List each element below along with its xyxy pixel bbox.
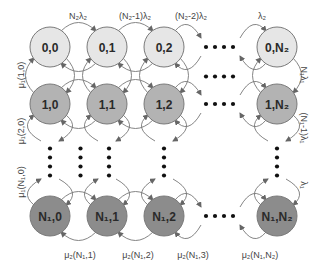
- state-node: N₁,2: [144, 196, 184, 236]
- rowN-ellipsis: [204, 214, 235, 218]
- service-rate-label: μ₂(N₁,N₂): [242, 250, 279, 260]
- state-label: 0,2: [156, 41, 173, 55]
- dot: [222, 214, 226, 218]
- dot: [107, 146, 111, 150]
- dot: [48, 155, 52, 159]
- arrival-rate-label: (N₂-1)λ₂: [119, 11, 151, 21]
- state-label: 0,0: [42, 41, 59, 55]
- arrival-rate-label: (N₂-2)λ₂: [175, 11, 207, 21]
- state-label: 1,2: [156, 98, 173, 112]
- row1-c1-c2-forward-arc: [118, 80, 153, 89]
- row1-c0-c1-forward-arc: [61, 80, 96, 89]
- row0-c0-c1-forward-arc: [61, 23, 96, 32]
- dot: [213, 74, 217, 78]
- dot: [162, 173, 166, 177]
- state-label: N₁,2: [152, 210, 176, 224]
- row0-c0-c1-backward-arc: [61, 63, 96, 72]
- dot: [213, 45, 217, 49]
- state-node: 1,0: [30, 84, 70, 124]
- state-label: 1,0: [42, 98, 59, 112]
- dot: [78, 164, 82, 168]
- dot: [162, 155, 166, 159]
- arrival-rate-label: N₂λ₂: [69, 11, 87, 21]
- row1-ellipsis: [204, 102, 235, 106]
- dot: [275, 164, 279, 168]
- markov-chain-diagram: 0,00,10,20,N₂1,01,11,21,N₂N₁,0N₁,1N₁,2N₁…: [0, 0, 318, 270]
- service-rate-label: μ₁(N₁,0): [16, 166, 26, 197]
- dot: [78, 146, 82, 150]
- state-label: N₁,1: [95, 210, 119, 224]
- state-label: N₁,0: [38, 210, 62, 224]
- colN-ellipsis: [275, 146, 279, 177]
- arrival-rate-label: N₁λ₁: [299, 66, 309, 83]
- state-node: 1,1: [87, 84, 127, 124]
- col2-r0-r1-up-arc: [140, 58, 149, 93]
- dot: [204, 74, 208, 78]
- state-nodes: 0,00,10,20,N₂1,01,11,21,N₂N₁,0N₁,1N₁,2N₁…: [30, 27, 297, 236]
- row2-c1-c2-backward-arc: [118, 232, 153, 241]
- dot: [231, 74, 235, 78]
- dot: [204, 45, 208, 49]
- state-node: 1,2: [144, 84, 184, 124]
- service-rate-label: μ₁(1,0): [16, 62, 26, 89]
- arrival-rate-label: λ₁: [299, 181, 309, 189]
- dot: [48, 164, 52, 168]
- state-node: N₁,N₂: [257, 196, 297, 236]
- dot: [231, 214, 235, 218]
- dot: [204, 102, 208, 106]
- state-node: 0,1: [87, 27, 127, 67]
- col1-r0-r1-up-arc: [83, 58, 92, 93]
- state-label: N₁,N₂: [262, 210, 293, 224]
- between-cols-ellipsis: [78, 146, 82, 177]
- col1-r0-r1-down-arc: [123, 58, 132, 93]
- dot: [78, 173, 82, 177]
- state-label: 1,1: [99, 98, 116, 112]
- dot: [204, 214, 208, 218]
- dot: [107, 173, 111, 177]
- dot: [275, 155, 279, 159]
- service-rate-label: μ₂(N₁,3): [177, 250, 209, 260]
- dot: [48, 146, 52, 150]
- row1-c1-c2-backward-arc: [118, 120, 153, 129]
- dot: [222, 102, 226, 106]
- col2-r0-r1-down-arc: [180, 58, 189, 93]
- col1-ellipsis: [107, 146, 111, 177]
- dot: [213, 102, 217, 106]
- dot: [78, 155, 82, 159]
- row0-c1-c2-forward-arc: [118, 23, 153, 32]
- state-label: 1,N₂: [265, 98, 289, 112]
- dot: [162, 146, 166, 150]
- col3-r0-r1-up-arc: [253, 58, 262, 93]
- row2-c0-c1-backward-arc: [61, 232, 96, 241]
- dot: [275, 173, 279, 177]
- state-node: N₁,0: [30, 196, 70, 236]
- row0-c1-c2-backward-arc: [118, 63, 153, 72]
- state-node: 0,2: [144, 27, 184, 67]
- arrival-rate-label: (N₁-1)λ₁: [299, 112, 309, 143]
- dot: [213, 214, 217, 218]
- state-node: 0,N₂: [257, 27, 297, 67]
- row0-ellipsis: [204, 45, 235, 49]
- service-rate-label: μ₁(2,0): [16, 118, 26, 145]
- dot: [162, 164, 166, 168]
- dot: [107, 164, 111, 168]
- dot: [231, 102, 235, 106]
- dot: [222, 74, 226, 78]
- arrival-rate-label: λ₂: [258, 11, 267, 21]
- state-node: N₁,1: [87, 196, 127, 236]
- dot: [107, 155, 111, 159]
- between-rows-ellipsis: [204, 74, 235, 78]
- col2-ellipsis: [162, 146, 166, 177]
- dot: [275, 146, 279, 150]
- row2-c0-c1-forward-arc: [61, 192, 96, 201]
- col0-ellipsis: [48, 146, 52, 177]
- state-label: 0,N₂: [265, 41, 289, 55]
- state-node: 1,N₂: [257, 84, 297, 124]
- col0-r0-r1-up-arc: [26, 58, 35, 93]
- col0-r0-r1-down-arc: [66, 58, 75, 93]
- state-label: 0,1: [99, 41, 116, 55]
- service-rate-label: μ₂(N₁,1): [64, 250, 96, 260]
- service-rate-label: μ₂(N₁,2): [122, 250, 154, 260]
- dot: [222, 45, 226, 49]
- row1-c0-c1-backward-arc: [61, 120, 96, 129]
